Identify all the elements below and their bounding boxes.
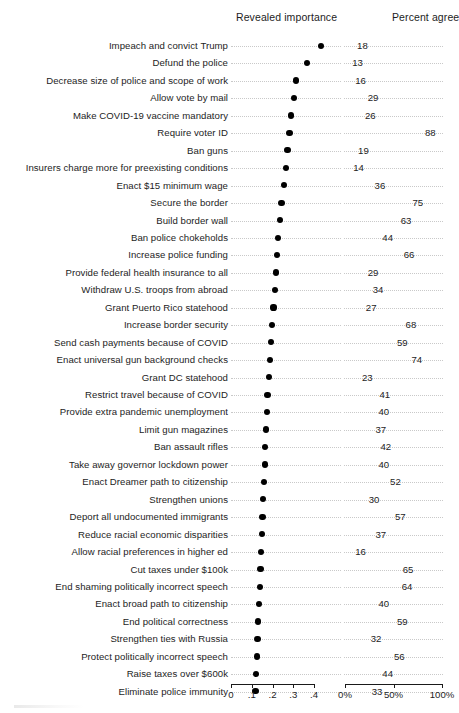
data-point-revealed-importance [278, 200, 284, 206]
row-label: Raise taxes over $600k [127, 667, 228, 681]
row-guide-left [231, 412, 341, 413]
table-row: Ban assault rifles42 [0, 439, 457, 455]
table-row: Reduce racial economic disparities37 [0, 527, 457, 543]
row-guide-left [231, 378, 341, 379]
axis-right-tick [394, 684, 395, 688]
row-label: Ban assault rifles [154, 440, 228, 454]
row-guide-left [231, 325, 341, 326]
axis-left-tick-label: .4 [310, 689, 318, 700]
table-row: Provide extra pandemic unemployment40 [0, 404, 457, 420]
data-value-percent-agree: 44 [382, 231, 393, 245]
table-row: Withdraw U.S. troops from abroad34 [0, 282, 457, 298]
data-value-percent-agree: 74 [411, 353, 422, 367]
row-label: Defund the police [152, 56, 228, 70]
data-value-percent-agree: 29 [368, 91, 379, 105]
data-value-percent-agree: 36 [375, 179, 386, 193]
axis-revealed-importance: 0.1.2.3.4 [231, 684, 314, 694]
data-point-revealed-importance [253, 671, 259, 677]
row-label: Restrict travel because of COVID [85, 388, 228, 402]
data-value-percent-agree: 56 [394, 650, 405, 664]
row-label: Enact Dreamer path to citizenship [82, 475, 228, 489]
table-row: Limit gun magazines37 [0, 422, 457, 438]
row-guide-right [344, 587, 443, 588]
data-value-percent-agree: 57 [395, 510, 406, 524]
data-value-percent-agree: 37 [376, 528, 387, 542]
row-guide-right [344, 116, 443, 117]
axis-right-tick-label: 50% [384, 689, 403, 700]
data-value-percent-agree: 40 [378, 458, 389, 472]
data-value-percent-agree: 41 [379, 388, 390, 402]
row-guide-left [231, 343, 341, 344]
data-point-revealed-importance [260, 496, 266, 502]
row-guide-right [344, 98, 443, 99]
row-guide-right [344, 430, 443, 431]
data-value-percent-agree: 16 [355, 545, 366, 559]
table-row: Cut taxes under $100k65 [0, 562, 457, 578]
row-guide-left [231, 255, 341, 256]
data-point-revealed-importance [256, 601, 262, 607]
column-header-percent-agree: Percent agree [392, 11, 459, 23]
row-label: Provide extra pandemic unemployment [60, 405, 228, 419]
row-label: End shaming politically incorrect speech [55, 580, 228, 594]
row-guide-left [231, 430, 341, 431]
row-label: Impeach and convict Trump [109, 39, 228, 53]
row-label: Strengthen unions [149, 493, 228, 507]
row-label: Ban police chokeholds [131, 231, 228, 245]
row-guide-left [231, 482, 341, 483]
row-guide-left [231, 500, 341, 501]
table-row: End shaming politically incorrect speech… [0, 579, 457, 595]
row-guide-right [344, 378, 443, 379]
row-label: Grant Puerto Rico statehood [105, 301, 228, 315]
row-guide-right [344, 221, 443, 222]
row-label: Insurers charge more for preexisting con… [26, 161, 228, 175]
table-row: Send cash payments because of COVID59 [0, 335, 457, 351]
row-guide-left [231, 552, 341, 553]
table-row: Increase border security68 [0, 317, 457, 333]
data-value-percent-agree: 30 [369, 493, 380, 507]
data-point-revealed-importance [270, 304, 276, 310]
data-point-revealed-importance [304, 60, 310, 66]
table-row: Decrease size of police and scope of wor… [0, 73, 457, 89]
data-point-revealed-importance [272, 287, 278, 293]
table-row: Protect politically incorrect speech56 [0, 649, 457, 665]
data-point-revealed-importance [277, 217, 283, 223]
row-label: Deport all undocumented immigrants [70, 510, 228, 524]
table-row: Require voter ID88 [0, 125, 457, 141]
row-label: Grant DC statehood [142, 371, 228, 385]
data-value-percent-agree: 16 [355, 74, 366, 88]
table-row: Ban police chokeholds44 [0, 230, 457, 246]
axis-left-tick [273, 684, 274, 688]
row-guide-left [231, 221, 341, 222]
axis-percent-agree: 0%50%100% [345, 684, 442, 694]
axis-left-tick-label: .3 [289, 689, 297, 700]
table-row: Increase police funding66 [0, 247, 457, 263]
data-value-percent-agree: 29 [368, 266, 379, 280]
row-guide-left [231, 116, 341, 117]
row-label: Strengthen ties with Russia [110, 632, 228, 646]
row-guide-left [231, 604, 341, 605]
table-row: Raise taxes over $600k44 [0, 666, 457, 682]
data-point-revealed-importance [262, 444, 268, 450]
data-value-percent-agree: 59 [397, 615, 408, 629]
row-label: Enact broad path to citizenship [95, 597, 228, 611]
row-guide-right [344, 325, 443, 326]
data-value-percent-agree: 40 [378, 597, 389, 611]
axis-left-tick [231, 684, 232, 688]
data-point-revealed-importance [257, 584, 263, 590]
data-value-percent-agree: 64 [402, 580, 413, 594]
row-guide-right [344, 447, 443, 448]
table-row: Take away governor lockdown power40 [0, 457, 457, 473]
row-label: Take away governor lockdown power [69, 458, 228, 472]
table-row: Grant DC statehood23 [0, 370, 457, 386]
row-guide-left [231, 622, 341, 623]
row-guide-left [231, 290, 341, 291]
axis-left-tick [314, 684, 315, 688]
data-value-percent-agree: 23 [362, 371, 373, 385]
table-row: Secure the border75 [0, 195, 457, 211]
row-label: End political correctness [123, 615, 228, 629]
row-guide-right [344, 290, 443, 291]
row-guide-right [344, 622, 443, 623]
row-guide-left [231, 308, 341, 309]
table-row: Restrict travel because of COVID41 [0, 387, 457, 403]
